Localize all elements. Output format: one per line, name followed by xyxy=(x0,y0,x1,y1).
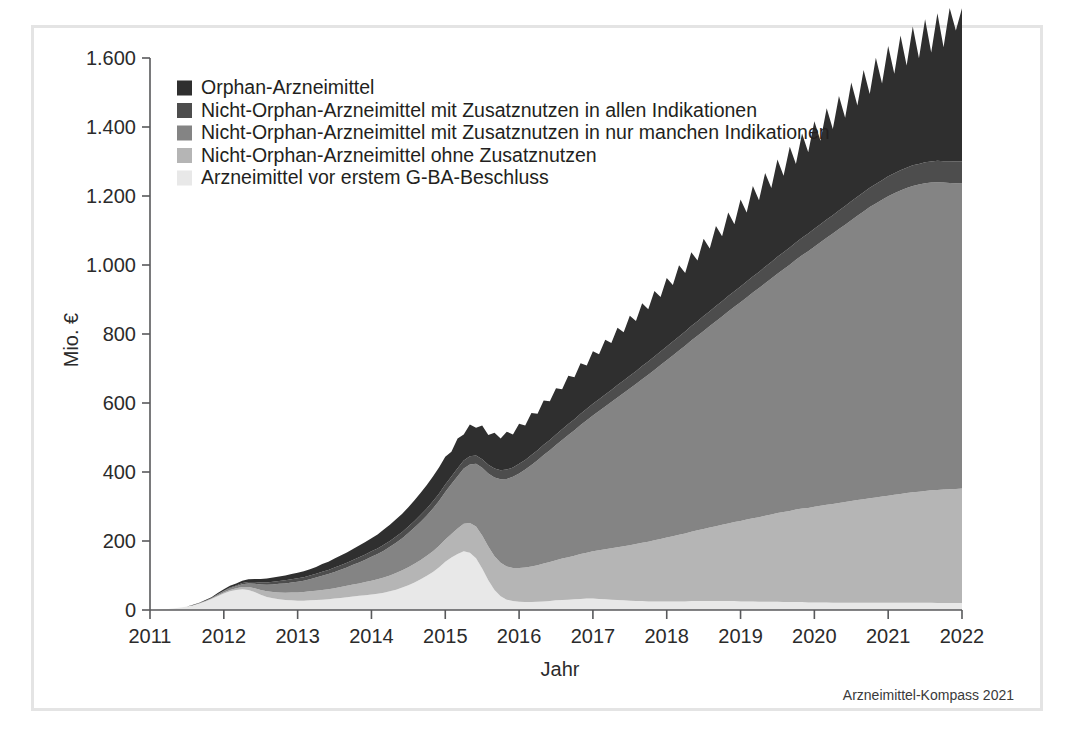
x-tick-label: 2015 xyxy=(423,625,468,647)
x-tick-label: 2018 xyxy=(644,625,689,647)
x-axis-ticks xyxy=(150,610,962,619)
y-tick-label: 400 xyxy=(103,461,136,483)
legend-swatch-3 xyxy=(177,148,192,163)
x-tick-label: 2019 xyxy=(718,625,763,647)
x-axis-tick-labels: 2011201220132014201520162017201820192020… xyxy=(128,625,984,647)
y-tick-label: 1.400 xyxy=(86,116,136,138)
x-axis-title: Jahr xyxy=(541,658,580,680)
y-axis-ticks xyxy=(142,58,150,610)
legend-swatch-4 xyxy=(177,171,192,186)
y-axis-title: Mio. € xyxy=(60,313,82,367)
chart-stage: 02004006008001.0001.2001.4001.600 201120… xyxy=(0,0,1075,746)
source-note: Arzneimittel-Kompass 2021 xyxy=(843,687,1014,703)
stacked-area-chart: 02004006008001.0001.2001.4001.600 201120… xyxy=(0,0,1075,746)
legend-label-3: Nicht-Orphan-Arzneimittel ohne Zusatznut… xyxy=(201,144,597,166)
x-tick-label: 2017 xyxy=(571,625,616,647)
legend-label-2: Nicht-Orphan-Arzneimittel mit Zusatznutz… xyxy=(201,121,830,143)
x-tick-label: 2011 xyxy=(128,625,171,647)
y-tick-label: 600 xyxy=(103,392,136,414)
x-tick-label: 2012 xyxy=(202,625,247,647)
legend-label-1: Nicht-Orphan-Arzneimittel mit Zusatznutz… xyxy=(201,99,757,121)
x-tick-label: 2021 xyxy=(866,625,911,647)
y-tick-label: 1.600 xyxy=(86,47,136,69)
legend-swatch-1 xyxy=(177,103,192,118)
y-axis-tick-labels: 02004006008001.0001.2001.4001.600 xyxy=(86,47,136,621)
y-tick-label: 1.200 xyxy=(86,185,136,207)
legend-swatch-2 xyxy=(177,126,192,141)
y-tick-label: 0 xyxy=(125,599,136,621)
x-tick-label: 2016 xyxy=(497,625,542,647)
legend-label-4: Arzneimittel vor erstem G-BA-Beschluss xyxy=(201,166,549,188)
chart-legend: Orphan-ArzneimittelNicht-Orphan-Arzneimi… xyxy=(177,76,830,188)
x-tick-label: 2022 xyxy=(940,625,985,647)
y-tick-label: 200 xyxy=(103,530,136,552)
legend-label-0: Orphan-Arzneimittel xyxy=(201,76,374,98)
y-tick-label: 1.000 xyxy=(86,254,136,276)
legend-swatch-0 xyxy=(177,81,192,96)
x-tick-label: 2014 xyxy=(349,625,394,647)
x-tick-label: 2013 xyxy=(275,625,320,647)
x-tick-label: 2020 xyxy=(792,625,837,647)
y-tick-label: 800 xyxy=(103,323,136,345)
